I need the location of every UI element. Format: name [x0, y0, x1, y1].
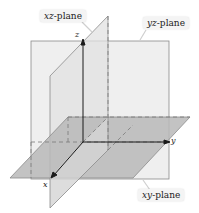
- yz-plane-label-var: yz: [147, 18, 157, 28]
- xz-plane-label: xz-plane: [40, 10, 86, 22]
- xz-plane-label-suffix: -plane: [54, 11, 82, 21]
- xy-plane-label: xy-plane: [138, 189, 184, 201]
- x-axis-label: x: [43, 180, 48, 189]
- y-axis-label: y: [171, 136, 176, 145]
- xy-plane-label-var: xy: [142, 190, 152, 200]
- yz-plane-label: yz-plane: [143, 17, 189, 29]
- diagram-canvas: [0, 0, 199, 213]
- yz-plane-label-suffix: -plane: [157, 18, 185, 28]
- xy-plane-label-suffix: -plane: [152, 190, 180, 200]
- z-axis-label: z: [75, 30, 79, 39]
- coordinate-planes-diagram: xz-plane yz-plane xy-plane z y x: [0, 0, 199, 213]
- xz-plane-label-var: xz: [44, 11, 54, 21]
